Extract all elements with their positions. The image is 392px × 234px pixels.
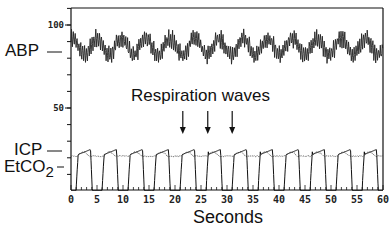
svg-text:55: 55 bbox=[351, 194, 363, 205]
svg-text:35: 35 bbox=[247, 194, 259, 205]
svg-text:10: 10 bbox=[117, 194, 129, 205]
svg-text:40: 40 bbox=[273, 194, 285, 205]
etco2-label-subscript: 2 bbox=[46, 163, 54, 180]
x-axis-title: Seconds bbox=[193, 207, 263, 228]
svg-text:25: 25 bbox=[195, 194, 207, 205]
svg-text:60: 60 bbox=[377, 194, 389, 205]
svg-text:50: 50 bbox=[325, 194, 337, 205]
respiration-arrows bbox=[180, 111, 235, 134]
icp-series bbox=[71, 152, 383, 157]
svg-text:5: 5 bbox=[94, 194, 100, 205]
abp-label: ABP bbox=[5, 41, 39, 61]
y-axis-ticks: 50100 bbox=[48, 8, 71, 174]
abp-series bbox=[71, 29, 383, 64]
svg-text:15: 15 bbox=[143, 194, 155, 205]
chart-canvas: 50100 051015202530354045505560 bbox=[0, 0, 392, 234]
svg-text:45: 45 bbox=[299, 194, 311, 205]
svg-text:50: 50 bbox=[53, 103, 64, 113]
svg-text:0: 0 bbox=[68, 194, 74, 205]
svg-text:30: 30 bbox=[221, 194, 233, 205]
annotation-label: Respiration waves bbox=[131, 86, 270, 106]
svg-text:20: 20 bbox=[169, 194, 181, 205]
series-group bbox=[71, 29, 383, 191]
etco2-label: EtCO2 bbox=[4, 157, 54, 177]
svg-text:100: 100 bbox=[48, 20, 64, 30]
x-axis-ticks: 051015202530354045505560 bbox=[68, 185, 389, 205]
etco2-label-main: EtCO bbox=[4, 157, 46, 176]
